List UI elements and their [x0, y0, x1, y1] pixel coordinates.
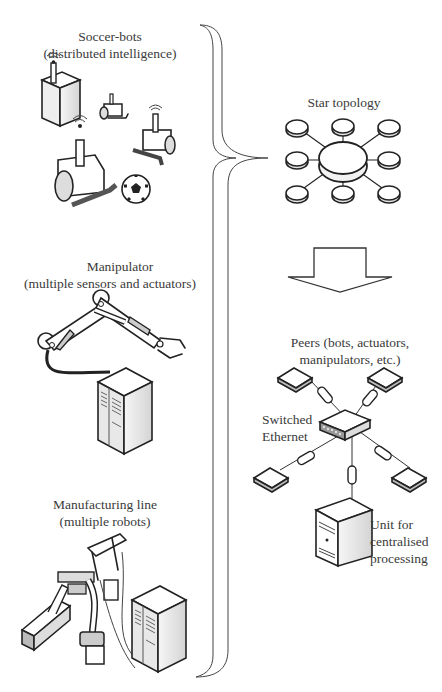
soccer-bots-title: Soccer-bots: [45, 28, 175, 45]
star-topology-title: Star topology: [300, 94, 388, 111]
switch-label-line2: Ethernet: [262, 428, 308, 445]
unit-label-line1: Unit for: [370, 516, 413, 533]
manufacturing-subtitle: (multiple robots): [35, 513, 175, 530]
manipulator-illustration: [38, 290, 185, 454]
peers-label-line1: Peers (bots, actuators,: [270, 334, 430, 351]
down-arrow-icon: [288, 248, 392, 292]
small-robot-icon: [100, 94, 128, 119]
manipulator-subtitle: (multiple sensors and actuators): [10, 275, 210, 292]
unit-label-line3: processing: [370, 550, 428, 567]
soccer-bots-illustration: [42, 53, 175, 205]
curly-brace: [196, 25, 268, 677]
switch-label-line1: Switched: [262, 411, 312, 428]
control-cabinet-icon: [98, 368, 152, 454]
soccer-ball-icon: [122, 175, 150, 203]
manipulator-title: Manipulator: [30, 258, 210, 275]
central-server-icon: [316, 498, 372, 566]
control-cabinet-icon: [132, 586, 186, 672]
peers-label-line2: manipulators, etc.): [270, 351, 430, 368]
ethernet-switch-icon: [320, 410, 370, 440]
robot-icon: [133, 105, 175, 165]
manufacturing-title: Manufacturing line: [35, 496, 175, 513]
star-topology-diagram: [286, 119, 400, 203]
manufacturing-line-illustration: [22, 534, 186, 672]
soccer-bots-subtitle: (distributed intelligence): [30, 45, 190, 62]
unit-label-line2: centralised: [370, 533, 428, 550]
wireless-server-icon: [42, 53, 80, 126]
large-robot-icon: [55, 116, 116, 206]
